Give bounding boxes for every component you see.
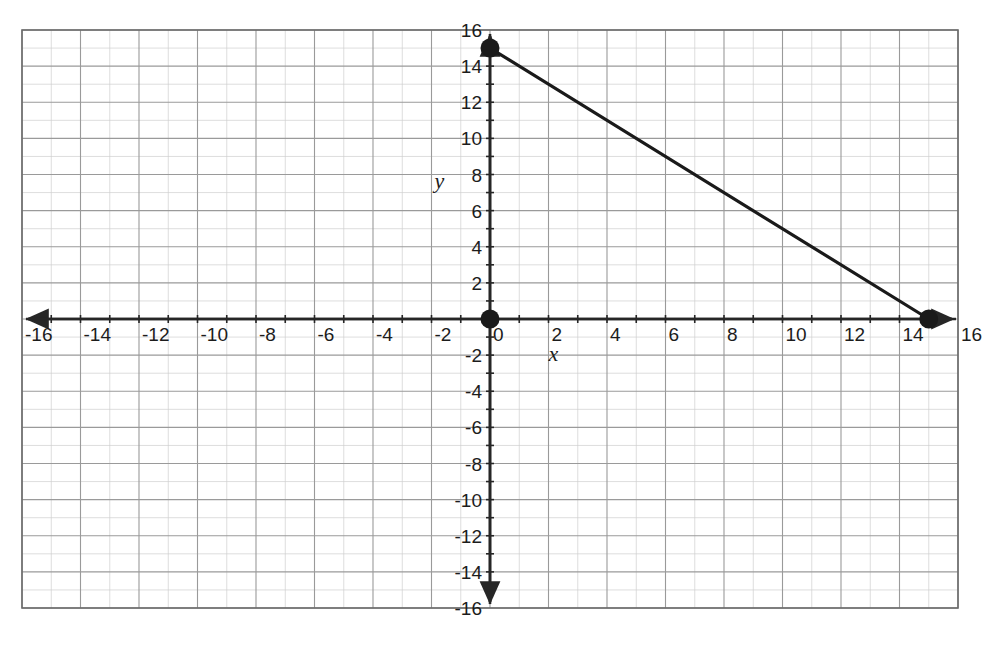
y-tick-label: 4 — [471, 237, 482, 258]
y-tick-label: 8 — [471, 165, 482, 186]
coordinate-plane-svg: -16-14-12-10-8-6-4-20246810121416 161412… — [0, 0, 993, 645]
x-tick-label: -4 — [376, 324, 393, 345]
coordinate-plane-figure: -16-14-12-10-8-6-4-20246810121416 161412… — [0, 0, 993, 645]
y-tick-label: 12 — [461, 92, 482, 113]
y-tick-label: -12 — [455, 526, 482, 547]
y-tick-label: -16 — [455, 598, 482, 619]
x-tick-label: 8 — [727, 324, 738, 345]
x-tick-label: -14 — [84, 324, 112, 345]
x-tick-label: 12 — [844, 324, 865, 345]
x-tick-label: -16 — [25, 324, 52, 345]
y-tick-label: -2 — [465, 345, 482, 366]
x-tick-label: -12 — [142, 324, 169, 345]
x-tick-label: 6 — [669, 324, 680, 345]
y-tick-label: 6 — [471, 201, 482, 222]
y-tick-label: -10 — [455, 490, 482, 511]
x-tick-label: -6 — [318, 324, 335, 345]
y-tick-label: 2 — [471, 273, 482, 294]
y-tick-label: -4 — [465, 381, 482, 402]
y-axis-label: y — [432, 168, 444, 193]
x-tick-label: 4 — [610, 324, 621, 345]
x-tick-label: 14 — [903, 324, 925, 345]
y-tick-label: -8 — [465, 454, 482, 475]
y-tick-label: 14 — [461, 56, 483, 77]
data-point — [481, 39, 500, 58]
y-tick-label: 10 — [461, 128, 482, 149]
x-tick-label: 10 — [786, 324, 807, 345]
y-tick-label: -14 — [455, 562, 483, 583]
data-point — [481, 310, 500, 329]
y-tick-label: -6 — [465, 417, 482, 438]
x-tick-label: -2 — [435, 324, 452, 345]
x-tick-label: 16 — [961, 324, 982, 345]
data-point — [919, 310, 938, 329]
x-axis-label: x — [548, 341, 559, 366]
x-tick-label: -10 — [201, 324, 228, 345]
y-tick-label: 16 — [461, 20, 482, 41]
x-tick-label: -8 — [259, 324, 276, 345]
